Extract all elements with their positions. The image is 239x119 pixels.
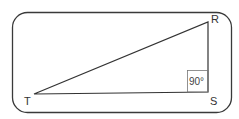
vertex-label-r: R (211, 13, 219, 25)
vertex-label-s: S (210, 95, 217, 107)
triangle-diagram: 90° R S T (0, 0, 239, 119)
right-angle-label: 90° (189, 76, 204, 87)
triangle-rst (34, 22, 208, 94)
diagram-frame (13, 13, 232, 113)
vertex-label-t: T (24, 95, 31, 107)
